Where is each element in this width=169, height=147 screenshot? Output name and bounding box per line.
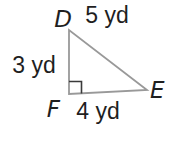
side-label-hypotenuse: 5 yd: [85, 2, 128, 28]
side-label-left: 3 yd: [12, 52, 55, 78]
geometry-figure: D E F 5 yd 3 yd 4 yd: [0, 0, 169, 147]
vertex-label-d: D: [54, 6, 72, 32]
triangle-diagram: D E F 5 yd 3 yd 4 yd: [0, 0, 169, 147]
vertex-label-f: F: [47, 96, 61, 122]
right-angle-icon: [69, 82, 82, 94]
side-label-bottom: 4 yd: [76, 98, 119, 124]
vertex-label-e: E: [150, 77, 165, 103]
